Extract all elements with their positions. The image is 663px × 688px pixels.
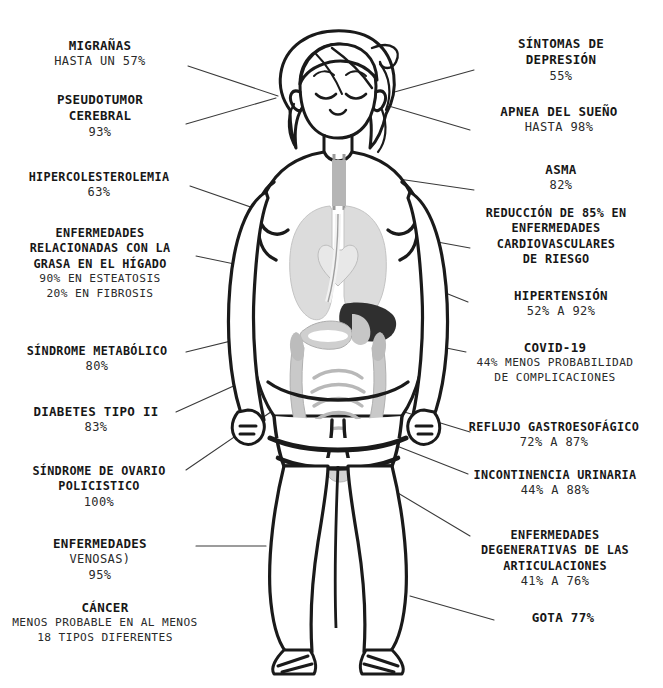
callout-cardiovascular-title: REDUCCIÓN DE 85% ENENFERMEDADESCARDIOVAS… <box>452 206 660 267</box>
callout-asma-title: ASMA <box>470 162 652 178</box>
callout-cancer-title: CÁNCER <box>0 600 210 616</box>
callout-enfermedades-venosas: ENFERMEDADES VENOSAS)95% <box>14 536 186 583</box>
callout-covid19: COVID-19 44% MENOS PROBABILIDADDE COMPLI… <box>450 340 660 385</box>
callout-depresion-title: SÍNTOMAS DEDEPRESIÓN <box>468 36 654 69</box>
callout-articulaciones: ENFERMEDADESDEGENERATIVAS DE LASARTICULA… <box>452 528 658 590</box>
callout-hipercolesterolemia-title: HIPERCOLESTEROLEMIA <box>4 170 194 185</box>
callout-sindrome-metabolico-title: SÍNDROME METABÓLICO <box>2 344 192 359</box>
callout-enfermedades-venosas-value: VENOSAS)95% <box>14 552 186 583</box>
callout-cardiovascular: REDUCCIÓN DE 85% ENENFERMEDADESCARDIOVAS… <box>452 206 660 267</box>
callout-sindrome-metabolico: SÍNDROME METABÓLICO 80% <box>2 344 192 375</box>
callout-sindrome-metabolico-value: 80% <box>2 359 192 375</box>
callout-reflujo: REFLUJO GASTROESOFÁGICO 72% A 87% <box>448 420 660 451</box>
callout-migranas: MIGRAÑAS HASTA UN 57% <box>10 38 190 70</box>
callout-cancer: CÁNCER MENOS PROBABLE EN AL MENOS18 TIPO… <box>0 600 210 645</box>
callout-covid19-value: 44% MENOS PROBABILIDADDE COMPLICACIONES <box>450 356 660 385</box>
callout-ovario-policistico-value: 100% <box>6 495 192 511</box>
callout-articulaciones-value: 41% A 76% <box>452 574 658 590</box>
callout-hipertension-value: 52% A 92% <box>468 304 654 320</box>
callout-diabetes-title: DIABETES TIPO II <box>10 404 182 420</box>
callout-higado-graso: ENFERMEDADESRELACIONADAS CON LAGRASA EN … <box>2 226 198 301</box>
callout-diabetes: DIABETES TIPO II 83% <box>10 404 182 436</box>
callout-ovario-policistico: SÍNDROME DE OVARIOPOLICISTICO 100% <box>6 464 192 510</box>
callout-apnea-value: HASTA 98% <box>462 120 656 136</box>
callout-higado-graso-value: 90% EN ESTEATOSIS20% EN FIBROSIS <box>2 272 198 301</box>
infographic-canvas: MIGRAÑAS HASTA UN 57% PSEUDOTUMORCEREBRA… <box>0 0 663 688</box>
callout-apnea: APNEA DEL SUEÑO HASTA 98% <box>462 104 656 136</box>
callout-depresion-value: 55% <box>468 69 654 85</box>
callout-asma: ASMA 82% <box>470 162 652 194</box>
callout-hipertension-title: HIPERTENSIÓN <box>468 288 654 304</box>
callout-hipercolesterolemia-value: 63% <box>4 185 194 201</box>
callout-incontinencia: INCONTINENCIA URINARIA 44% A 88% <box>452 468 658 499</box>
callout-incontinencia-title: INCONTINENCIA URINARIA <box>452 468 658 483</box>
callout-pseudotumor-value: 93% <box>14 125 186 141</box>
callout-covid19-title: COVID-19 <box>450 340 660 356</box>
callout-ovario-policistico-title: SÍNDROME DE OVARIOPOLICISTICO <box>6 464 192 495</box>
callout-cancer-value: MENOS PROBABLE EN AL MENOS18 TIPOS DIFER… <box>0 616 210 645</box>
callout-gota-title: GOTA 77% <box>470 610 656 626</box>
callout-incontinencia-value: 44% A 88% <box>452 483 658 499</box>
callout-migranas-value: HASTA UN 57% <box>10 54 190 70</box>
callout-diabetes-value: 83% <box>10 420 182 436</box>
callout-migranas-title: MIGRAÑAS <box>10 38 190 54</box>
callout-articulaciones-title: ENFERMEDADESDEGENERATIVAS DE LASARTICULA… <box>452 528 658 574</box>
callout-pseudotumor-title: PSEUDOTUMORCEREBRAL <box>14 92 186 125</box>
callout-hipercolesterolemia: HIPERCOLESTEROLEMIA 63% <box>4 170 194 201</box>
callout-gota: GOTA 77% <box>470 610 656 626</box>
figure-illustration <box>196 14 476 686</box>
callout-enfermedades-venosas-title: ENFERMEDADES <box>14 536 186 552</box>
callout-pseudotumor: PSEUDOTUMORCEREBRAL 93% <box>14 92 186 140</box>
callout-higado-graso-title: ENFERMEDADESRELACIONADAS CON LAGRASA EN … <box>2 226 198 272</box>
callout-hipertension: HIPERTENSIÓN 52% A 92% <box>468 288 654 320</box>
callout-reflujo-title: REFLUJO GASTROESOFÁGICO <box>448 420 660 435</box>
callout-reflujo-value: 72% A 87% <box>448 435 660 451</box>
callout-depresion: SÍNTOMAS DEDEPRESIÓN 55% <box>468 36 654 84</box>
callout-apnea-title: APNEA DEL SUEÑO <box>462 104 656 120</box>
callout-asma-value: 82% <box>470 178 652 194</box>
